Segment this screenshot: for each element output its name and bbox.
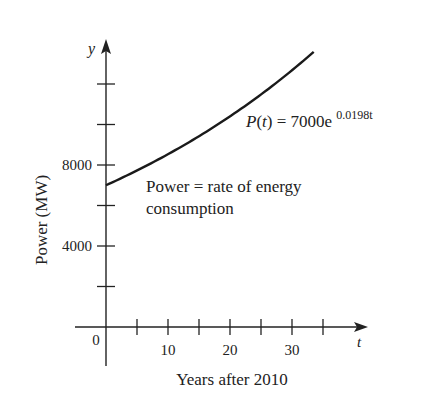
equation-annotation: P(t) = 7000e 0.0198t bbox=[245, 108, 373, 131]
annotation-line-2: consumption bbox=[146, 199, 234, 218]
y-axis-label: Power (MW) bbox=[32, 175, 51, 265]
x-tick-label: 30 bbox=[285, 342, 300, 358]
x-axis-symbol: t bbox=[357, 334, 362, 350]
equation-exponent: 0.0198t bbox=[336, 108, 373, 122]
y-axis-symbol: y bbox=[86, 40, 96, 58]
y-tick-label: 8000 bbox=[62, 157, 92, 173]
x-tick-label: 10 bbox=[161, 342, 176, 358]
x-tick-labels: 0102030 bbox=[92, 332, 299, 358]
annotation-line-1: Power = rate of energy bbox=[146, 177, 302, 196]
x-tick-label: 20 bbox=[223, 342, 238, 358]
equation-main: ) = 7000e bbox=[267, 112, 332, 131]
x-tick-label: 0 bbox=[92, 332, 100, 348]
x-axis-label: Years after 2010 bbox=[176, 370, 288, 389]
power-chart: t y 0102030 40008000 Years after 2010 Po… bbox=[0, 0, 421, 396]
y-tick-label: 4000 bbox=[62, 238, 92, 254]
y-tick-labels: 40008000 bbox=[62, 157, 92, 254]
